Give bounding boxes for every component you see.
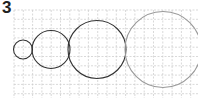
tangent-circles xyxy=(14,12,199,88)
circle-4 xyxy=(125,12,198,88)
circle-3 xyxy=(68,21,126,79)
circle-grid-diagram xyxy=(0,0,198,105)
exercise-figure: 3 xyxy=(0,0,198,105)
dashed-grid xyxy=(14,10,198,98)
